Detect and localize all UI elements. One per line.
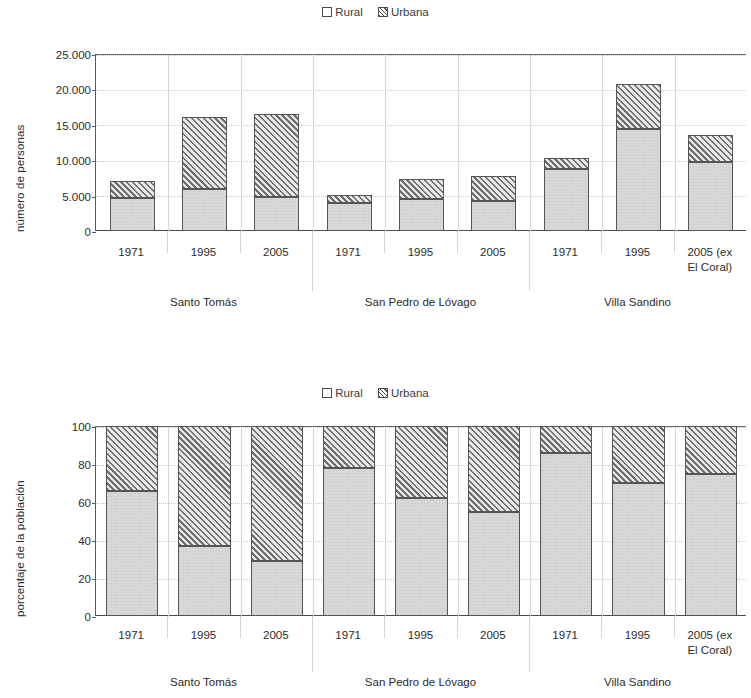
bar-segment-urbana[interactable] [182, 117, 227, 189]
bar-segment-rural[interactable] [106, 491, 158, 616]
bar-segment-rural[interactable] [323, 468, 375, 616]
stacked-bar[interactable] [110, 181, 155, 231]
bar-segment-urbana[interactable] [616, 84, 661, 129]
x-axis-category-label: 1971 [312, 628, 384, 643]
bar-segment-urbana[interactable] [251, 426, 303, 561]
y-axis-tick-label: 60 [78, 497, 91, 509]
category-separator [385, 427, 386, 617]
bar-segment-rural[interactable] [471, 201, 516, 231]
chart-figure-absolute: Rural Urbana número de personas 05.00010… [0, 0, 751, 349]
bar-segment-rural[interactable] [178, 546, 230, 616]
stacked-bar[interactable] [106, 426, 158, 616]
legend-label-rural: Rural [335, 6, 362, 18]
stacked-bar[interactable] [540, 426, 592, 616]
y-axis-tick-label: 0 [85, 611, 91, 623]
bar-segment-rural[interactable] [254, 197, 299, 231]
bar-segment-urbana[interactable] [688, 135, 733, 161]
bar-segment-urbana[interactable] [106, 426, 158, 491]
category-separator [602, 55, 603, 232]
bar-segment-urbana[interactable] [395, 426, 447, 498]
y-axis-tick-label: 5.000 [62, 191, 91, 203]
legend-item-urbana: Urbana [378, 6, 429, 18]
stacked-bar[interactable] [327, 195, 372, 231]
legend-absolute: Rural Urbana [0, 6, 751, 18]
legend-swatch-rural [322, 7, 332, 17]
category-separator [530, 427, 531, 617]
bar-segment-rural[interactable] [395, 498, 447, 616]
bar-segment-rural[interactable] [399, 199, 444, 231]
bar-segment-urbana[interactable] [468, 426, 520, 512]
y-axis-tick-mark [92, 90, 96, 91]
group-separator [529, 616, 530, 672]
stacked-bar[interactable] [182, 117, 227, 231]
bar-segment-urbana[interactable] [612, 426, 664, 483]
stacked-bar[interactable] [468, 426, 520, 616]
category-separator [675, 55, 676, 232]
x-axis-category-label: 2005 [240, 628, 312, 643]
stacked-bar[interactable] [254, 114, 299, 231]
bar-segment-rural[interactable] [544, 169, 589, 231]
bar-segment-urbana[interactable] [110, 181, 155, 198]
x-axis-category-label: 2005 (ex El Coral) [674, 628, 746, 658]
bar-segment-urbana[interactable] [544, 158, 589, 169]
bar-segment-urbana[interactable] [685, 426, 737, 474]
bar-segment-rural[interactable] [182, 189, 227, 231]
bar-segment-urbana[interactable] [399, 179, 444, 199]
category-separator [385, 55, 386, 232]
bar-segment-urbana[interactable] [323, 426, 375, 468]
x-axis-group-label: Santo Tomás [95, 296, 312, 308]
x-axis-category-label: 1971 [312, 245, 384, 260]
bar-segment-rural[interactable] [540, 453, 592, 616]
y-axis-tick-label: 10.000 [56, 155, 91, 167]
stacked-bar[interactable] [616, 84, 661, 231]
x-axis-group-label: Villa Sandino [529, 296, 746, 308]
x-axis-category-label: 1995 [384, 245, 456, 260]
bar-segment-urbana[interactable] [327, 195, 372, 203]
category-separator [675, 427, 676, 617]
category-tick-separator [674, 616, 675, 638]
bar-segment-rural[interactable] [251, 561, 303, 616]
bar-segment-rural[interactable] [688, 162, 733, 231]
stacked-bar[interactable] [471, 176, 516, 231]
x-axis-category-label: 1995 [167, 628, 239, 643]
category-separator [602, 427, 603, 617]
stacked-bar[interactable] [395, 426, 447, 616]
stacked-bar[interactable] [251, 426, 303, 616]
stacked-bar[interactable] [612, 426, 664, 616]
stacked-bar[interactable] [323, 426, 375, 616]
x-axis-category-label: 1971 [529, 245, 601, 260]
category-separator [168, 427, 169, 617]
category-tick-separator [167, 231, 168, 253]
y-axis-tick-label: 20 [78, 573, 91, 585]
stacked-bar[interactable] [685, 426, 737, 616]
x-axis-category-label: 1971 [95, 245, 167, 260]
y-axis-tick-mark [92, 503, 96, 504]
bar-segment-urbana[interactable] [540, 426, 592, 453]
legend-item-rural: Rural [322, 387, 362, 399]
group-separator [529, 231, 530, 291]
legend-label-rural: Rural [335, 387, 362, 399]
x-axis-category-label: 2005 (ex El Coral) [674, 245, 746, 275]
bar-segment-rural[interactable] [616, 129, 661, 231]
y-axis-tick-label: 80 [78, 459, 91, 471]
category-tick-separator [240, 231, 241, 253]
bar-segment-rural[interactable] [468, 512, 520, 617]
bar-segment-rural[interactable] [612, 483, 664, 616]
group-separator [312, 231, 313, 291]
stacked-bar[interactable] [178, 426, 230, 616]
bar-segment-rural[interactable] [685, 474, 737, 617]
stacked-bar[interactable] [688, 135, 733, 231]
bar-segment-urbana[interactable] [178, 426, 230, 546]
bar-segment-rural[interactable] [327, 203, 372, 231]
x-axis-group-label: Santo Tomás [95, 676, 312, 688]
bar-segment-urbana[interactable] [254, 114, 299, 197]
category-tick-separator [457, 616, 458, 638]
legend-swatch-urbana [378, 7, 388, 17]
category-tick-separator [601, 231, 602, 253]
stacked-bar[interactable] [544, 158, 589, 231]
stacked-bar[interactable] [399, 179, 444, 231]
legend-label-urbana: Urbana [391, 387, 429, 399]
bar-segment-urbana[interactable] [471, 176, 516, 201]
category-separator [241, 55, 242, 232]
bar-segment-rural[interactable] [110, 198, 155, 231]
